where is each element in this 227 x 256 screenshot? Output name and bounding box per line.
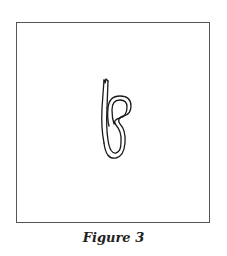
figure-caption: Figure 3 [0, 230, 227, 245]
knot-illustration [96, 78, 136, 163]
